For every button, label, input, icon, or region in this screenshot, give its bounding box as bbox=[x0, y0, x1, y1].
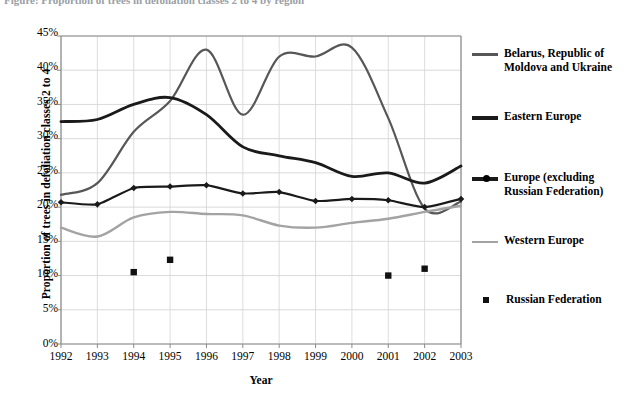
square-marker-icon bbox=[167, 257, 173, 263]
legend-label: Russian Federation bbox=[506, 293, 625, 307]
legend-label: Eastern Europe bbox=[504, 110, 624, 124]
diamond-marker-icon bbox=[240, 190, 247, 197]
axis-frame bbox=[61, 36, 461, 344]
diamond-marker-icon bbox=[94, 201, 101, 208]
x-tick-3: 1995 bbox=[150, 350, 190, 362]
x-tick-10: 2002 bbox=[405, 350, 445, 362]
diamond-marker-icon bbox=[349, 196, 356, 203]
diamond-marker-icon bbox=[483, 175, 490, 182]
square-marker-icon bbox=[131, 269, 137, 275]
legend-label: Belarus, Republic of Moldova and Ukraine bbox=[504, 47, 624, 74]
diamond-marker-icon bbox=[58, 199, 65, 206]
diamond-marker-icon bbox=[385, 197, 392, 204]
x-tick-0: 1992 bbox=[41, 350, 81, 362]
chart-figure: Figure: Proportion of trees in defoliati… bbox=[0, 0, 625, 398]
legend-line-marker-swatch-icon bbox=[472, 177, 498, 181]
x-tick-9: 2001 bbox=[368, 350, 408, 362]
legend-label: Western Europe bbox=[504, 234, 624, 248]
x-axis-title: Year bbox=[60, 374, 462, 386]
square-marker-icon bbox=[421, 266, 427, 272]
series-eastern-europe bbox=[61, 97, 461, 183]
square-marker-icon bbox=[385, 272, 391, 278]
legend-label: Europe (excluding Russian Federation) bbox=[504, 171, 624, 198]
x-tick-2: 1994 bbox=[114, 350, 154, 362]
diamond-marker-icon bbox=[203, 182, 210, 189]
legend-line-swatch-icon bbox=[472, 241, 498, 243]
series-western-europe bbox=[61, 206, 461, 237]
series-europe-excluding-russian-federation bbox=[58, 182, 465, 210]
diamond-marker-icon bbox=[458, 196, 465, 203]
legend-line-swatch-icon bbox=[472, 53, 498, 56]
x-tick-7: 1999 bbox=[296, 350, 336, 362]
x-tick-6: 1998 bbox=[259, 350, 299, 362]
diamond-marker-icon bbox=[167, 183, 174, 190]
diamond-marker-icon bbox=[312, 198, 319, 205]
diamond-marker-icon bbox=[130, 185, 137, 192]
x-tick-1: 1993 bbox=[77, 350, 117, 362]
x-tick-4: 1996 bbox=[186, 350, 226, 362]
chart-legend: Belarus, Republic of Moldova and Ukraine… bbox=[472, 0, 625, 398]
series-belarus-republic-of-moldova-and-ukraine bbox=[61, 44, 461, 213]
legend-line-swatch-icon bbox=[472, 116, 498, 120]
x-tick-5: 1997 bbox=[223, 350, 263, 362]
x-tick-8: 2000 bbox=[332, 350, 372, 362]
data-series-layer bbox=[58, 44, 465, 278]
gridlines bbox=[61, 36, 461, 344]
diamond-marker-icon bbox=[276, 189, 283, 196]
square-marker-icon bbox=[483, 297, 489, 303]
